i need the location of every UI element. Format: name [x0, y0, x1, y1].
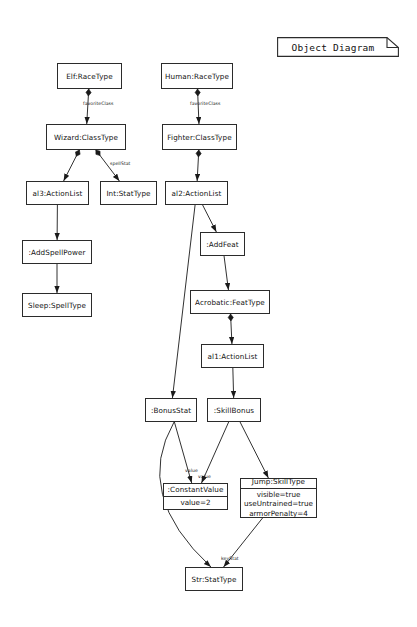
- edge-skillbonus-to-jump: [240, 422, 268, 478]
- node-attribute: value=2: [164, 498, 227, 507]
- node-label: Elf:RaceType: [58, 70, 121, 83]
- edge-label-value: value: [185, 468, 198, 473]
- edge-al1-to-skillbonus: [233, 368, 234, 398]
- composition-diamond-icon: [228, 314, 233, 321]
- object-node-constval[interactable]: :ConstantValuevalue=2: [163, 483, 228, 510]
- composition-diamond-icon: [195, 89, 200, 96]
- edge-label-favoriteclass: favoriteClass: [190, 101, 221, 106]
- object-node-acrobatic[interactable]: Acrobatic:FeatType: [190, 290, 270, 314]
- node-attribute-compartment: visible=trueuseUntrained=truearmorPenalt…: [241, 489, 316, 520]
- edge-label-keystat: keyStat: [221, 556, 239, 561]
- node-attribute: useUntrained=true: [241, 499, 316, 508]
- node-label: :AddFeat: [201, 238, 244, 251]
- node-label: Jump:SkillType: [241, 476, 316, 489]
- node-label: :AddSpellPower: [23, 246, 91, 259]
- edge-label-favoriteclass: favoriteClass: [83, 101, 114, 106]
- object-node-al2[interactable]: al2:ActionList: [165, 181, 228, 205]
- node-label: :SkillBonus: [208, 404, 260, 417]
- object-node-fighter[interactable]: Fighter:ClassType: [162, 124, 237, 150]
- composition-diamond-icon: [96, 150, 100, 156]
- node-label: Int:StatType: [101, 187, 156, 200]
- node-label: Str:StatType: [186, 573, 242, 586]
- composition-diamond-icon: [196, 150, 201, 157]
- object-node-bonusstat[interactable]: :BonusStat: [145, 398, 197, 422]
- node-label: :ConstantValue: [164, 484, 227, 497]
- edge-addfeat-to-acrobatic: [224, 256, 228, 290]
- object-node-addfeat[interactable]: :AddFeat: [200, 232, 245, 256]
- diagram-title-note: Object Diagram: [277, 37, 399, 57]
- node-label: Acrobatic:FeatType: [191, 296, 269, 309]
- node-label: Human:RaceType: [162, 70, 232, 83]
- composition-diamond-icon: [75, 150, 80, 156]
- object-node-human[interactable]: Human:RaceType: [161, 63, 233, 89]
- node-attribute: visible=true: [241, 490, 316, 499]
- node-attribute: armorPenalty=4: [241, 509, 316, 518]
- object-diagram-canvas: Object Diagram Elf:RaceTypeHuman:RaceTyp…: [0, 0, 417, 627]
- composition-diamond-icon: [86, 89, 91, 96]
- node-label: al2:ActionList: [166, 187, 227, 200]
- object-node-addspell[interactable]: :AddSpellPower: [22, 240, 92, 264]
- edge-label-spellstat: spellStat: [110, 161, 130, 166]
- node-label: Sleep:SpellType: [23, 299, 91, 312]
- node-label: :BonusStat: [146, 404, 196, 417]
- diagram-title-text: Object Diagram: [277, 37, 399, 57]
- edge-bonusstat-to-constval: [174, 422, 191, 483]
- edge-al2-to-addfeat: [203, 205, 217, 232]
- object-node-str[interactable]: Str:StatType: [185, 567, 243, 591]
- node-label: al1:ActionList: [202, 350, 263, 363]
- object-node-sleep[interactable]: Sleep:SpellType: [22, 293, 92, 317]
- object-node-skillbonus[interactable]: :SkillBonus: [207, 398, 261, 422]
- node-label: al3:ActionList: [27, 187, 88, 200]
- node-label: Wizard:ClassType: [47, 131, 125, 144]
- object-node-elf[interactable]: Elf:RaceType: [57, 63, 122, 89]
- object-node-jump[interactable]: Jump:SkillTypevisible=trueuseUntrained=t…: [240, 478, 317, 518]
- object-node-al1[interactable]: al1:ActionList: [201, 344, 264, 368]
- object-node-al3[interactable]: al3:ActionList: [26, 181, 89, 205]
- object-node-int[interactable]: Int:StatType: [100, 181, 157, 205]
- node-label: Fighter:ClassType: [163, 131, 236, 144]
- object-node-wizard[interactable]: Wizard:ClassType: [46, 124, 126, 150]
- edge-label-value: value: [198, 474, 211, 479]
- node-attribute-compartment: value=2: [164, 497, 227, 509]
